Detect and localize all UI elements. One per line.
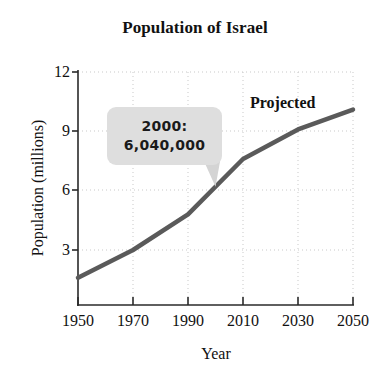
x-tick-label-2030: 2030: [270, 313, 326, 329]
y-tick-label-3: 3: [42, 242, 70, 258]
x-tick-label-2050: 2050: [325, 313, 381, 329]
y-tick-label-6: 6: [42, 182, 70, 198]
x-tick-label-1950: 1950: [50, 313, 106, 329]
population-callout: 2000: 6,040,000: [107, 107, 222, 165]
x-tick-label-1970: 1970: [105, 313, 161, 329]
y-axis-ticks: [72, 72, 78, 250]
x-tick-label-1990: 1990: [160, 313, 216, 329]
chart-screenshot: Population of Israel Population (million…: [0, 0, 390, 374]
x-axis-ticks: [78, 297, 353, 305]
y-tick-label-9: 9: [42, 123, 70, 139]
callout-year-line: 2000:: [141, 117, 187, 136]
callout-value-line: 6,040,000: [124, 136, 206, 155]
x-tick-label-2010: 2010: [215, 313, 271, 329]
y-tick-label-12: 12: [42, 64, 70, 80]
projected-annotation-label: Projected: [250, 94, 315, 112]
